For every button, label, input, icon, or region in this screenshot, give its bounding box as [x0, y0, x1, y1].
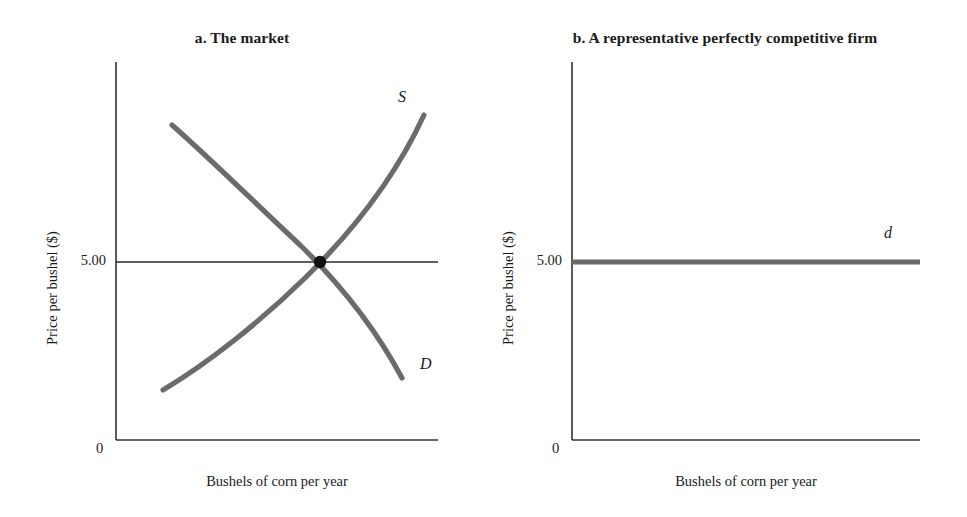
panel-b-demand-curve-label: d [884, 224, 892, 242]
panel-b-price-tick-label: 5.00 [480, 252, 562, 269]
figure-container: a. The market Price per bushel ($) Bushe… [0, 0, 967, 517]
panel-b-origin-label: 0 [552, 440, 559, 457]
panel-b-x-axis-label: Bushels of corn per year [572, 473, 920, 490]
panel-b-text-layer: Price per bushel ($) Bushels of corn per… [0, 0, 967, 517]
panel-b-y-axis-label: Price per bushel ($) [500, 231, 517, 345]
